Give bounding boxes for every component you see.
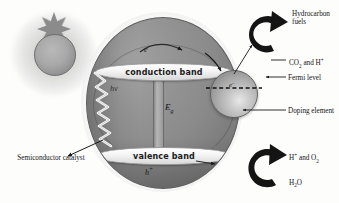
photocatalysis-diagram: conduction band valence band Eg hv e– h+… <box>0 0 339 203</box>
hole-transport-arrow <box>196 161 215 164</box>
label-doping-element: Doping element <box>288 107 334 115</box>
electron-transport-arrow <box>140 44 182 52</box>
hydrocarbon-reaction-arrow <box>249 11 288 52</box>
label-h-and-o2: H+ and O2 <box>289 152 319 164</box>
label-fermi-level: Fermi level <box>288 74 321 82</box>
label-co2-and-h: CO2 and H+ <box>289 57 324 69</box>
water-oxidation-reaction-arrow <box>248 144 287 187</box>
label-hydrocarbon-fuels: Hydrocarbon fuels <box>292 10 338 27</box>
electron-to-dopant-arrow <box>205 53 221 71</box>
dopant-to-fuel-leader <box>234 45 252 74</box>
photon-zigzag-icon <box>95 73 111 146</box>
vector-overlay <box>0 0 339 203</box>
label-semiconductor-catalyst: Semiconductor catalyst <box>14 154 88 162</box>
label-h2o: H2O <box>289 179 302 189</box>
